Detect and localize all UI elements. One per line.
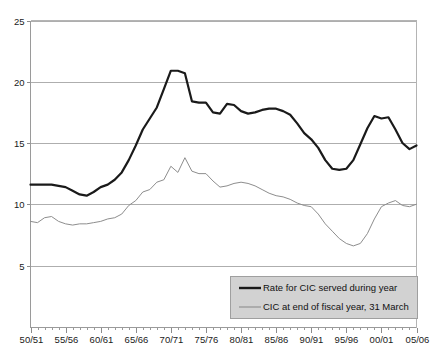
x-tick-label-95-96: 95/96 xyxy=(335,334,359,345)
x-tick-label-70-71: 70/71 xyxy=(160,334,184,345)
x-tick-label-60-61: 60/61 xyxy=(90,334,114,345)
line-chart: 510152025 50/5155/5660/6165/6670/7175/76… xyxy=(0,0,436,364)
y-axis-tick-labels: 510152025 xyxy=(14,16,25,272)
legend-label-cic-end-of-fiscal-year: CIC at end of fiscal year, 31 March xyxy=(263,301,409,312)
x-tick-label-05-06: 05/06 xyxy=(406,334,430,345)
x-tick-label-80-81: 80/81 xyxy=(230,334,254,345)
x-tick-label-65-66: 65/66 xyxy=(125,334,149,345)
chart-legend: Rate for CIC served during year CIC at e… xyxy=(231,277,418,319)
x-axis-tick-labels: 50/5155/5660/6165/6670/7175/7680/8185/86… xyxy=(20,334,430,345)
x-tick-label-75-76: 75/76 xyxy=(195,334,219,345)
x-tick-label-55-56: 55/56 xyxy=(55,334,79,345)
y-tick-label-25: 25 xyxy=(14,16,25,27)
x-tick-label-85-86: 85/86 xyxy=(265,334,289,345)
x-tick-label-00-01: 00/01 xyxy=(370,334,394,345)
x-tick-label-90-91: 90/91 xyxy=(300,334,324,345)
legend-label-rate-for-cic-served: Rate for CIC served during year xyxy=(263,282,397,293)
x-axis-major-ticks xyxy=(32,328,418,333)
y-axis-ticks xyxy=(27,22,31,267)
series-line-rate-for-cic-served xyxy=(31,71,417,196)
y-tick-label-5: 5 xyxy=(19,261,24,272)
chart-container: 510152025 50/5155/5660/6165/6670/7175/76… xyxy=(0,0,436,364)
y-tick-label-20: 20 xyxy=(14,77,25,88)
data-series-layer xyxy=(31,71,417,246)
x-tick-label-50-51: 50/51 xyxy=(20,334,44,345)
y-tick-label-10: 10 xyxy=(14,199,25,210)
gridlines xyxy=(31,22,417,267)
series-line-cic-end-of-fiscal-year xyxy=(31,158,417,246)
y-tick-label-15: 15 xyxy=(14,138,25,149)
